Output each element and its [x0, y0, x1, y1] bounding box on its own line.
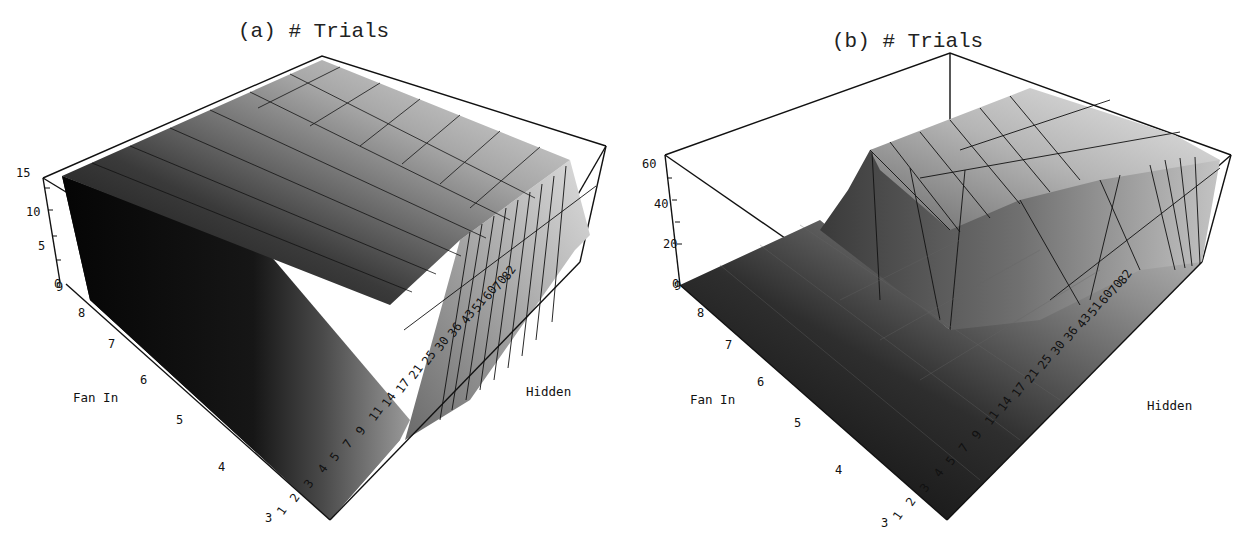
fanin-tick-a-7: 7	[108, 337, 115, 351]
svg-text:17: 17	[393, 376, 413, 396]
xlabel-b: Fan In	[690, 392, 735, 407]
ylabel-a: Hidden	[526, 384, 571, 399]
xlabel-a: Fan In	[73, 390, 118, 405]
fanin-tick-b-8: 8	[697, 306, 704, 320]
fanin-tick-b-6: 6	[757, 375, 764, 389]
z-tick-a-5: 5	[38, 239, 45, 253]
fanin-tick-b-9: 9	[674, 279, 681, 293]
z-tick-b-60: 60	[642, 157, 656, 171]
surface-plot-b: 60 40 20 0 9 8 7 6 5 4 3 Fan In 1 2 3 4 …	[620, 0, 1241, 535]
fanin-tick-a-5: 5	[176, 413, 183, 427]
chart-panel-b: (b) # Trials	[620, 0, 1240, 535]
fanin-tick-a-6: 6	[140, 373, 147, 387]
z-tick-a-10: 10	[26, 205, 40, 219]
fanin-tick-a-8: 8	[78, 306, 85, 320]
svg-text:2: 2	[903, 495, 919, 509]
fanin-tick-b-4: 4	[835, 463, 842, 477]
svg-text:1: 1	[274, 504, 290, 518]
ylabel-b: Hidden	[1147, 398, 1192, 413]
z-tick-b-20: 20	[663, 237, 677, 251]
fanin-tick-b-5: 5	[794, 416, 801, 430]
fanin-tick-b-7: 7	[725, 338, 732, 352]
fanin-tick-a-4: 4	[218, 460, 225, 474]
chart-panel-a: (a) # Trials	[0, 0, 620, 535]
svg-text:1: 1	[890, 509, 906, 523]
fanin-tick-a-3: 3	[265, 511, 272, 525]
z-tick-a-15: 15	[16, 166, 30, 180]
z-tick-b-40: 40	[654, 197, 668, 211]
fanin-tick-b-3: 3	[881, 516, 888, 530]
surface-plot-a: 15 10 5 0 9 8 7 6 5 4 3 Fan In 1 2 3 4 5…	[0, 0, 620, 535]
fanin-tick-a-9: 9	[56, 280, 63, 294]
